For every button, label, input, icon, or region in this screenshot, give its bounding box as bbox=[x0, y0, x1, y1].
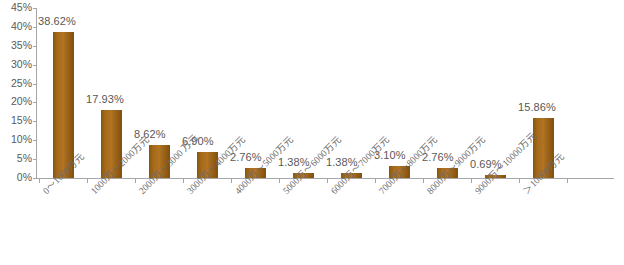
y-axis-tick-label: 40% bbox=[0, 21, 32, 31]
bar-value-label: 15.86% bbox=[518, 101, 556, 113]
y-axis-tick-label: 35% bbox=[0, 40, 32, 50]
bar-value-label: 17.93% bbox=[86, 93, 124, 105]
y-axis-tick-label: 5% bbox=[0, 153, 32, 163]
bar-chart: 0%5%10%15%20%25%30%35%40%45% 38.62%17.93… bbox=[0, 0, 624, 265]
bar-value-label: 38.62% bbox=[38, 15, 76, 27]
y-axis-tick-label: 45% bbox=[0, 2, 32, 12]
y-axis-tick-label: 10% bbox=[0, 134, 32, 144]
y-axis-tick-label: 25% bbox=[0, 78, 32, 88]
y-axis-tick-label: 20% bbox=[0, 96, 32, 106]
x-axis-line bbox=[36, 178, 614, 179]
y-axis-tick-label: 15% bbox=[0, 115, 32, 125]
x-axis-category-labels: 0～1000万元1000万～2000万元2000万～3000 万元3000万～4… bbox=[0, 183, 624, 265]
bar bbox=[53, 32, 74, 178]
y-axis-tick-label: 0% bbox=[0, 172, 32, 182]
y-axis-tick-label: 30% bbox=[0, 59, 32, 69]
